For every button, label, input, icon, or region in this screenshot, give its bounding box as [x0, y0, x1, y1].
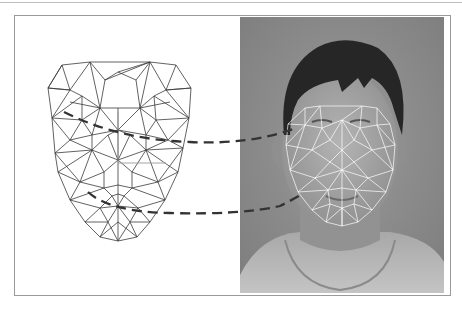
wireframe-mesh — [48, 62, 191, 241]
face-mesh-figure — [0, 0, 462, 310]
